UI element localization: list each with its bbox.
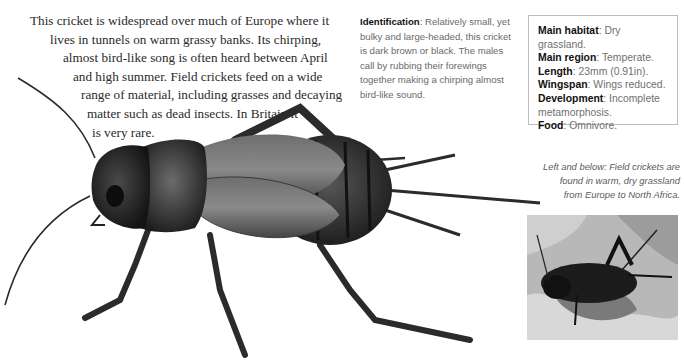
fact-value: : 23mm (0.91in). bbox=[573, 66, 649, 77]
fact-main-habitat: Main habitat: Dry grassland. bbox=[538, 24, 669, 51]
intro-line: range of material, including grasses and… bbox=[0, 86, 340, 105]
fact-value: : Omnivore. bbox=[563, 120, 617, 131]
fact-label: Development bbox=[538, 93, 603, 104]
intro-paragraph: This cricket is widespread over much of … bbox=[0, 12, 340, 142]
intro-line: and high summer. Field crickets feed on … bbox=[0, 68, 340, 87]
intro-line: lives in tunnels on warm grassy banks. I… bbox=[0, 31, 340, 50]
fact-food: Food: Omnivore. bbox=[538, 119, 669, 133]
fact-label: Main habitat bbox=[538, 25, 599, 36]
intro-line: matter such as dead insects. In Britain … bbox=[0, 105, 340, 124]
intro-line: This cricket is widespread over much of … bbox=[0, 12, 340, 31]
fact-value: : Wings reduced. bbox=[588, 79, 666, 90]
caption-line: found in warm, dry grassland bbox=[526, 174, 680, 188]
fact-development: Development: Incomplete metamorphosis. bbox=[538, 92, 669, 119]
fact-label: Length bbox=[538, 66, 573, 77]
fact-label: Wingspan bbox=[538, 79, 588, 90]
fact-wingspan: Wingspan: Wings reduced. bbox=[538, 78, 669, 92]
intro-line: is very rare. bbox=[0, 124, 340, 143]
cricket-photo bbox=[527, 215, 678, 340]
identification-text: Identification: Relatively small, yet bu… bbox=[360, 15, 520, 103]
fact-main-region: Main region: Temperate. bbox=[538, 51, 669, 65]
intro-line: almost bird-like song is often heard bet… bbox=[0, 49, 340, 68]
caption-line: Left and below: Field crickets are bbox=[526, 160, 680, 174]
fact-label: Food bbox=[538, 120, 563, 131]
identification-label: Identification bbox=[360, 16, 420, 27]
fact-value: : Temperate. bbox=[596, 52, 654, 63]
fact-length: Length: 23mm (0.91in). bbox=[538, 65, 669, 79]
caption-line: from Europe to North Africa. bbox=[526, 188, 680, 202]
photo-caption: Left and below: Field crickets are found… bbox=[526, 160, 680, 202]
identification-body: : Relatively small, yet bulky and large-… bbox=[360, 16, 511, 100]
facts-box: Main habitat: Dry grassland. Main region… bbox=[528, 15, 678, 125]
fact-label: Main region bbox=[538, 52, 596, 63]
cricket-photo-image bbox=[527, 215, 678, 340]
